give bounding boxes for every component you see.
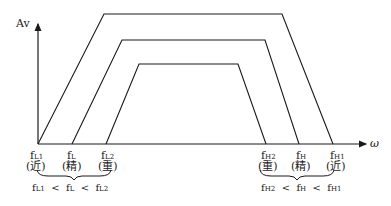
tag-fine-high: (精)	[291, 161, 311, 173]
y-axis-label: Av	[16, 18, 30, 30]
x-axis-label: ω	[370, 138, 379, 150]
tag-near-high: (近)	[326, 161, 346, 173]
outer-response-curve	[38, 14, 333, 144]
high-inequality: fH2 < fH < fH1	[261, 182, 342, 195]
tag-heavy-low: (重)	[98, 161, 118, 173]
middle-response-curve	[72, 40, 299, 144]
tag-fine-low: (精)	[62, 161, 82, 173]
low-inequality: fL1 < fL < fL2	[32, 182, 108, 195]
tag-near-low: (近)	[26, 161, 46, 173]
inner-response-curve	[106, 64, 266, 144]
tag-heavy-high: (重)	[258, 161, 278, 173]
frequency-response-diagram	[0, 0, 391, 206]
